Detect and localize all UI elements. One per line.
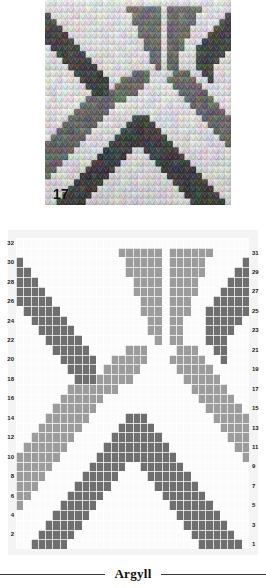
swatch-number-label: 17 [53, 186, 69, 202]
row-label-left-26: 26 [7, 298, 14, 304]
row-label-left-18: 18 [7, 376, 14, 382]
row-label-left-32: 32 [7, 240, 14, 246]
row-label-left-4: 4 [11, 512, 14, 518]
row-label-right-31: 31 [252, 250, 259, 256]
row-label-right-15: 15 [252, 405, 259, 411]
row-label-right-3: 3 [252, 522, 255, 528]
row-label-left-6: 6 [11, 493, 14, 499]
row-label-left-8: 8 [11, 473, 14, 479]
argyll-chart-grid: 3230282624222018161412108642312927252321… [16, 238, 249, 549]
row-label-right-7: 7 [252, 483, 255, 489]
row-label-right-29: 29 [252, 269, 259, 275]
row-label-right-23: 23 [252, 327, 259, 333]
argyll-chart-canvas [16, 238, 249, 549]
row-label-left-12: 12 [7, 434, 14, 440]
caption-title: Argyll [105, 566, 160, 582]
row-label-right-11: 11 [252, 444, 258, 450]
caption-bar: Argyll [0, 560, 266, 588]
row-label-left-30: 30 [7, 259, 14, 265]
row-label-right-5: 5 [252, 502, 255, 508]
row-label-left-28: 28 [7, 279, 14, 285]
row-label-right-27: 27 [252, 288, 259, 294]
row-label-right-19: 19 [252, 366, 259, 372]
row-label-left-16: 16 [7, 395, 14, 401]
argyll-chart-panel: 3230282624222018161412108642312927252321… [8, 230, 258, 555]
row-label-right-9: 9 [252, 463, 255, 469]
row-label-left-10: 10 [7, 454, 14, 460]
row-label-right-1: 1 [252, 541, 255, 547]
caption-rule-right [161, 574, 266, 575]
row-label-right-13: 13 [252, 425, 259, 431]
caption-rule-left [0, 574, 105, 575]
row-label-left-20: 20 [7, 356, 14, 362]
row-label-right-21: 21 [252, 347, 259, 353]
row-label-left-14: 14 [7, 415, 14, 421]
swatch-panel: 17 [0, 0, 266, 222]
knitted-swatch-image [45, 0, 231, 205]
row-label-left-2: 2 [11, 531, 14, 537]
row-label-left-22: 22 [7, 337, 14, 343]
row-label-right-25: 25 [252, 308, 259, 314]
knitted-swatch-canvas [45, 0, 231, 205]
row-label-left-24: 24 [7, 318, 14, 324]
row-label-right-17: 17 [252, 386, 259, 392]
